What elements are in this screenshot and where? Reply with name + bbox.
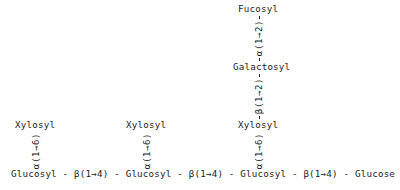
linkage-label-xylosyl-glucosyl-middle: α(1→6) [142, 133, 152, 169]
residue-glucose-terminal: Glucose [355, 168, 395, 179]
linkage-xylosyl-glucosyl-middle: α(1→6) [140, 132, 154, 167]
linkage-xylosyl-glucosyl-left: α(1→6) [29, 132, 43, 167]
linkage-backbone-1: β(1→4) [74, 168, 108, 179]
residue-xylosyl-middle: Xylosyl [126, 119, 166, 130]
diagram-canvas: Fucosyl α(1→2) Galactosyl β(1→2) Xylosyl… [0, 0, 400, 190]
residue-xylosyl-left: Xylosyl [15, 119, 55, 130]
linkage-backbone-2: β(1→4) [189, 168, 223, 179]
residue-xylosyl-right: Xylosyl [238, 119, 278, 130]
backbone-separator: - [172, 168, 189, 179]
backbone-separator: - [223, 168, 240, 179]
residue-galactosyl: Galactosyl [233, 61, 290, 72]
linkage-backbone-3: β(1→4) [303, 168, 337, 179]
linkage-label-xylosyl-glucosyl-right: α(1→6) [254, 133, 264, 169]
residue-glucosyl-2: Glucosyl [126, 168, 172, 179]
residue-glucosyl-1: Glucosyl [11, 168, 57, 179]
backbone-separator: - [338, 168, 355, 179]
connector-tick-top [259, 74, 260, 77]
backbone-separator: - [108, 168, 125, 179]
connector-tick-top [259, 16, 260, 19]
linkage-label-galactosyl-xylosyl: β(1→2) [254, 78, 264, 114]
linkage-label-fucosyl-galactosyl: α(1→2) [254, 20, 264, 56]
linkage-label-xylosyl-glucosyl-left: α(1→6) [31, 133, 41, 169]
residue-glucosyl-3: Glucosyl [240, 168, 286, 179]
linkage-xylosyl-glucosyl-right: α(1→6) [252, 132, 266, 167]
backbone-separator: - [286, 168, 303, 179]
backbone-separator: - [57, 168, 74, 179]
linkage-galactosyl-xylosyl: β(1→2) [252, 74, 266, 119]
backbone-row: Glucosyl - β(1→4) - Glucosyl - β(1→4) - … [11, 168, 395, 180]
linkage-fucosyl-galactosyl: α(1→2) [252, 16, 266, 61]
residue-fucosyl: Fucosyl [238, 3, 278, 14]
